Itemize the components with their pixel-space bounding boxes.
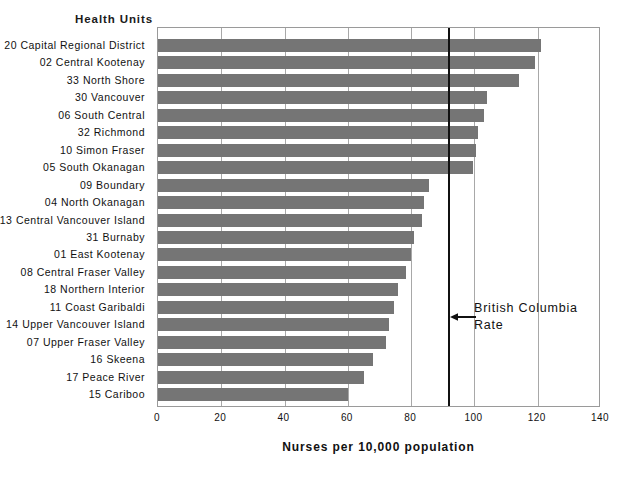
category-label: 32 Richmond xyxy=(0,126,145,138)
bc-rate-annotation: British Columbia Rate xyxy=(474,300,578,334)
x-tick-label: 0 xyxy=(154,412,160,423)
bar xyxy=(158,301,394,314)
bar xyxy=(158,91,487,104)
bar xyxy=(158,56,535,69)
gridline-120 xyxy=(538,28,539,406)
category-label: 06 South Central xyxy=(0,109,145,121)
bar xyxy=(158,248,411,261)
bc-rate-annotation-line2: Rate xyxy=(474,317,578,334)
nurses-per-population-bar-chart: Health Units 20 Capital Regional Distric… xyxy=(0,0,628,481)
bar xyxy=(158,336,386,349)
bar xyxy=(158,74,519,87)
category-label: 20 Capital Regional District xyxy=(0,39,145,51)
category-label: 14 Upper Vancouver Island xyxy=(0,318,145,330)
x-tick-label: 40 xyxy=(278,412,290,423)
x-tick-label: 60 xyxy=(341,412,353,423)
bar xyxy=(158,109,484,122)
category-label: 07 Upper Fraser Valley xyxy=(0,336,145,348)
category-label: 13 Central Vancouver Island xyxy=(0,214,145,226)
bar xyxy=(158,126,478,139)
bar xyxy=(158,161,473,174)
x-axis-title: Nurses per 10,000 population xyxy=(157,440,600,454)
category-label-column: 20 Capital Regional District02 Central K… xyxy=(0,27,150,407)
x-tick-label: 80 xyxy=(404,412,416,423)
health-units-header: Health Units xyxy=(75,13,153,25)
x-tick-label: 20 xyxy=(214,412,226,423)
x-tick-label: 100 xyxy=(464,412,482,423)
category-label: 15 Cariboo xyxy=(0,388,145,400)
bc-rate-arrow-icon xyxy=(450,312,476,322)
category-label: 30 Vancouver xyxy=(0,91,145,103)
category-label: 02 Central Kootenay xyxy=(0,56,145,68)
bar xyxy=(158,179,429,192)
x-tick-label: 140 xyxy=(591,412,609,423)
bar xyxy=(158,388,348,401)
plot-area xyxy=(157,27,600,407)
bar xyxy=(158,353,373,366)
category-label: 08 Central Fraser Valley xyxy=(0,266,145,278)
bc-rate-annotation-line1: British Columbia xyxy=(474,300,578,317)
category-label: 33 North Shore xyxy=(0,74,145,86)
category-label: 01 East Kootenay xyxy=(0,248,145,260)
bar xyxy=(158,283,398,296)
bar xyxy=(158,371,364,384)
bar xyxy=(158,214,422,227)
category-label: 18 Northern Interior xyxy=(0,283,145,295)
british-columbia-rate-line xyxy=(448,28,450,406)
bar xyxy=(158,318,389,331)
category-label: 04 North Okanagan xyxy=(0,196,145,208)
bar xyxy=(158,231,414,244)
bar xyxy=(158,144,476,157)
category-label: 10 Simon Fraser xyxy=(0,144,145,156)
category-label: 16 Skeena xyxy=(0,353,145,365)
bar xyxy=(158,196,424,209)
bar xyxy=(158,39,541,52)
category-label: 17 Peace River xyxy=(0,371,145,383)
bar xyxy=(158,266,406,279)
category-label: 31 Burnaby xyxy=(0,231,145,243)
category-label: 09 Boundary xyxy=(0,179,145,191)
category-label: 05 South Okanagan xyxy=(0,161,145,173)
category-label: 11 Coast Garibaldi xyxy=(0,301,145,313)
x-tick-label: 120 xyxy=(528,412,546,423)
